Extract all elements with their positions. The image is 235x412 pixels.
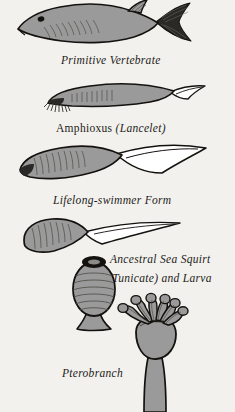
caption-text-genus: Amphioxus xyxy=(56,122,112,134)
siphon-aperture xyxy=(88,260,100,265)
pterobranch-stalk xyxy=(144,358,166,412)
caption-text: Lifelong-swimmer Form xyxy=(53,194,171,206)
figure-amphioxus xyxy=(42,78,222,114)
caption-lifelong-swimmer: Lifelong-swimmer Form xyxy=(53,192,171,209)
caption-primitive-vertebrate: Primitive Vertebrate xyxy=(61,52,161,69)
figure-pterobranch xyxy=(112,296,204,412)
figure-primitive-vertebrate xyxy=(8,0,208,46)
caption-pterobranch: Pterobranch xyxy=(62,365,123,382)
amphioxus-body xyxy=(48,84,174,106)
figure-lifelong-swimmer xyxy=(16,142,226,188)
caption-text-common: (Lancelet) xyxy=(116,122,166,134)
tentacle-crown xyxy=(118,293,188,325)
illustration-plate: Primitive Vertebrate Amphioxus xyxy=(0,0,235,412)
caption-amphioxus: Amphioxus (Lancelet) xyxy=(56,120,166,137)
caption-text: Primitive Vertebrate xyxy=(61,54,161,66)
tail-fin xyxy=(116,145,206,173)
caption-text: Pterobranch xyxy=(62,367,123,379)
